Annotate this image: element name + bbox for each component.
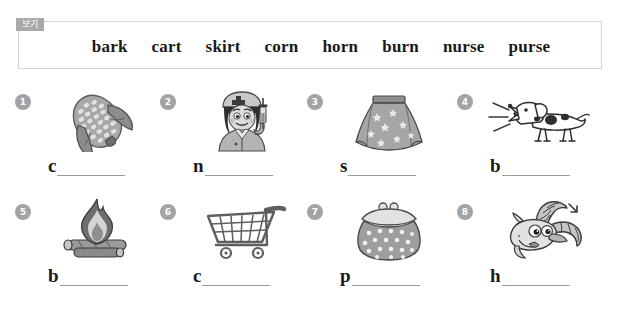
answer-blank[interactable] <box>205 158 273 176</box>
item-number-badge: 1 <box>15 94 31 110</box>
item-row: 1 <box>0 86 621 196</box>
item-number-badge: 2 <box>160 94 176 110</box>
worksheet-item-6: 6 <box>153 196 303 306</box>
nurse-icon <box>187 88 297 154</box>
answer-field[interactable]: c <box>193 266 270 286</box>
worksheet-item-8: 8 <box>450 196 600 306</box>
worksheet-item-3: 3 s <box>300 86 450 196</box>
item-number-badge: 7 <box>307 204 323 220</box>
shopping-cart-icon <box>187 198 297 264</box>
answer-field[interactable]: p <box>340 266 420 286</box>
answer-field[interactable]: h <box>490 266 570 286</box>
answer-initial: b <box>48 266 59 286</box>
corn-cob-icon <box>42 88 152 154</box>
answer-initial: c <box>48 156 56 176</box>
worksheet-item-4: 4 <box>450 86 600 196</box>
barking-dog-icon <box>484 88 594 154</box>
word-bank-item[interactable]: burn <box>382 37 419 57</box>
word-bank-tag: 보기 <box>16 18 44 31</box>
answer-initial: s <box>340 156 347 176</box>
word-bank-item[interactable]: skirt <box>206 37 241 57</box>
answer-initial: p <box>340 266 351 286</box>
word-bank-item[interactable]: corn <box>265 37 299 57</box>
word-bank-list: bark cart skirt corn horn burn nurse pur… <box>19 22 601 68</box>
item-number-badge: 6 <box>160 204 176 220</box>
answer-blank[interactable] <box>502 158 570 176</box>
coin-purse-icon <box>334 198 444 264</box>
word-bank-box: bark cart skirt corn horn burn nurse pur… <box>18 21 602 69</box>
word-bank-item[interactable]: cart <box>152 37 182 57</box>
word-bank-item[interactable]: bark <box>92 37 128 57</box>
answer-initial: c <box>193 266 201 286</box>
worksheet-item-5: 5 b <box>8 196 158 306</box>
item-row: 5 b <box>0 196 621 306</box>
word-bank-item[interactable]: purse <box>509 37 551 57</box>
skirt-icon <box>334 88 444 154</box>
campfire-icon <box>42 198 152 264</box>
answer-blank[interactable] <box>202 268 270 286</box>
answer-blank[interactable] <box>348 158 416 176</box>
word-bank-item[interactable]: nurse <box>443 37 485 57</box>
item-number-badge: 3 <box>307 94 323 110</box>
answer-initial: n <box>193 156 204 176</box>
worksheet-item-2: 2 <box>153 86 303 196</box>
answer-initial: h <box>490 266 501 286</box>
answer-blank[interactable] <box>57 158 125 176</box>
answer-initial: b <box>490 156 501 176</box>
goat-horns-icon <box>484 198 594 264</box>
answer-blank[interactable] <box>502 268 570 286</box>
answer-field[interactable]: b <box>490 156 570 176</box>
item-number-badge: 8 <box>457 204 473 220</box>
worksheet-item-1: 1 <box>8 86 158 196</box>
item-number-badge: 5 <box>15 204 31 220</box>
answer-blank[interactable] <box>352 268 420 286</box>
item-number-badge: 4 <box>457 94 473 110</box>
word-bank-item[interactable]: horn <box>322 37 358 57</box>
answer-field[interactable]: c <box>48 156 125 176</box>
worksheet-item-7: 7 p <box>300 196 450 306</box>
answer-field[interactable]: s <box>340 156 416 176</box>
answer-blank[interactable] <box>60 268 128 286</box>
answer-field[interactable]: b <box>48 266 128 286</box>
answer-field[interactable]: n <box>193 156 273 176</box>
